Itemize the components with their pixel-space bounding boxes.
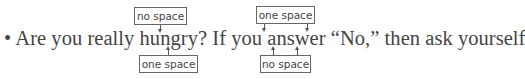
arrowhead-up-icon bbox=[166, 46, 170, 50]
arrowhead-up-icon bbox=[271, 46, 275, 50]
arrowhead-down-icon bbox=[158, 29, 162, 33]
annotation-label: no space bbox=[137, 10, 184, 22]
annotation-label: one space bbox=[259, 9, 313, 21]
annotation-label: no space bbox=[262, 58, 309, 70]
bullet: • bbox=[4, 27, 11, 49]
annotation-no-space-bottom: no space bbox=[260, 55, 311, 73]
arrowhead-down-icon bbox=[305, 28, 309, 32]
annotation-no-space-top: no space bbox=[134, 7, 187, 25]
annotation-one-space-top: one space bbox=[256, 6, 315, 24]
annotation-label: one space bbox=[142, 58, 196, 70]
arrowhead-down-icon bbox=[262, 28, 266, 32]
annotation-one-space-bottom: one space bbox=[139, 55, 198, 73]
arrowhead-up-icon bbox=[295, 46, 299, 50]
